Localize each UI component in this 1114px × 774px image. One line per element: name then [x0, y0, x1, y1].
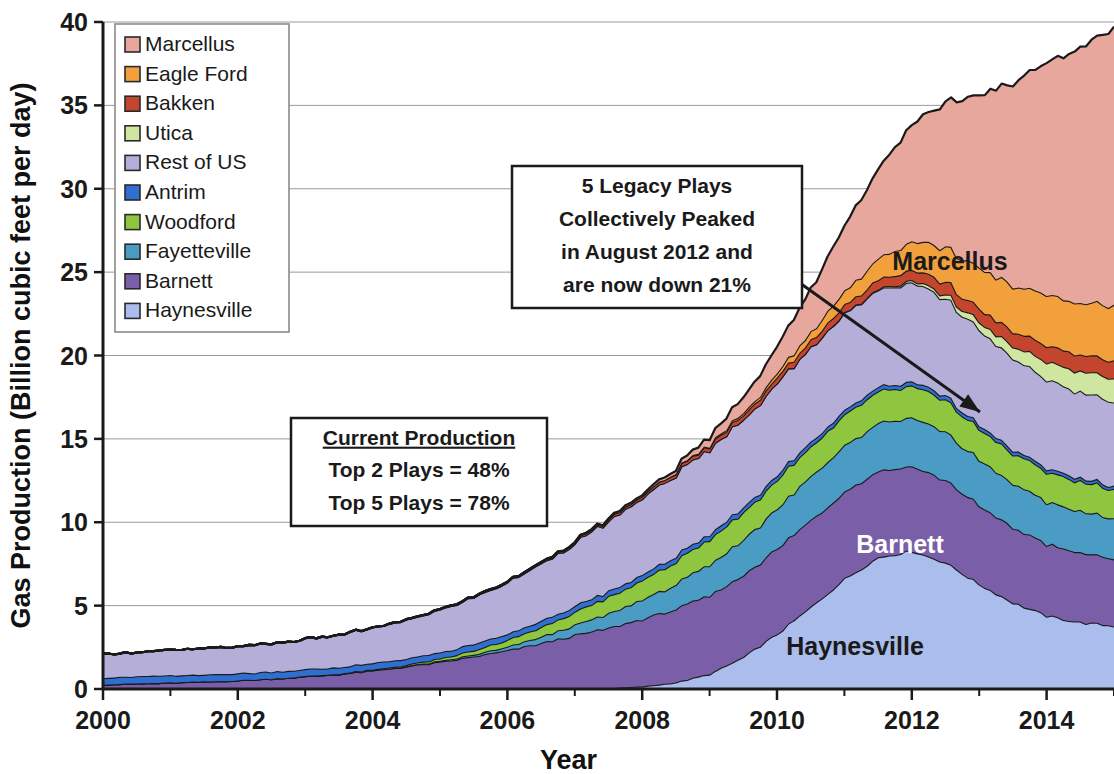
x-tick-label: 2002: [210, 706, 266, 734]
legend-label-rest-of-us: Rest of US: [145, 150, 247, 173]
x-axis-title: Year: [540, 745, 598, 774]
legend-swatch-utica: [125, 126, 140, 141]
y-tick-label: 15: [60, 425, 88, 453]
series-inline-label: Haynesville: [786, 632, 924, 660]
legend-label-haynesville: Haynesville: [145, 298, 252, 321]
legend-label-antrim: Antrim: [145, 180, 206, 203]
y-tick-label: 30: [60, 175, 88, 203]
y-tick-label: 35: [60, 91, 88, 119]
legend-label-woodford: Woodford: [145, 210, 236, 233]
y-tick-label: 25: [60, 258, 88, 286]
y-tick-label: 5: [74, 592, 88, 620]
legend-label-utica: Utica: [145, 121, 193, 144]
stacked-area-chart: 0510152025303540200020022004200620082010…: [0, 0, 1114, 774]
legend-swatch-woodford: [125, 215, 140, 230]
legend-swatch-bakken: [125, 96, 140, 111]
x-tick-label: 2000: [75, 706, 131, 734]
annotation-line: Top 5 Plays = 78%: [328, 491, 509, 514]
annotation-line: Current Production: [323, 426, 516, 449]
chart-figure: 0510152025303540200020022004200620082010…: [0, 0, 1114, 774]
x-tick-label: 2014: [1019, 706, 1075, 734]
annotation-line: in August 2012 and: [561, 240, 753, 263]
annotation-line: Top 2 Plays = 48%: [328, 458, 509, 481]
legend-swatch-antrim: [125, 185, 140, 200]
legend-label-eagle-ford: Eagle Ford: [145, 62, 248, 85]
legend-swatch-fayetteville: [125, 244, 140, 259]
series-inline-label: Barnett: [856, 530, 944, 558]
y-tick-label: 0: [74, 675, 88, 703]
series-inline-label: Marcellus: [892, 247, 1007, 275]
legend-swatch-eagle-ford: [125, 67, 140, 82]
y-tick-label: 40: [60, 8, 88, 36]
y-tick-label: 10: [60, 508, 88, 536]
x-tick-label: 2010: [749, 706, 805, 734]
x-tick-label: 2006: [480, 706, 536, 734]
y-tick-label: 20: [60, 342, 88, 370]
annotation-line: Collectively Peaked: [559, 207, 755, 230]
legend-label-barnett: Barnett: [145, 269, 213, 292]
annotation-line: 5 Legacy Plays: [582, 174, 733, 197]
x-tick-label: 2004: [345, 706, 401, 734]
legend-swatch-barnett: [125, 274, 140, 289]
x-tick-label: 2012: [884, 706, 940, 734]
legend-label-fayetteville: Fayetteville: [145, 239, 251, 262]
legend-label-bakken: Bakken: [145, 91, 215, 114]
legend-swatch-haynesville: [125, 303, 140, 318]
y-axis-title: Gas Production (Billion cubic feet per d…: [6, 82, 36, 628]
legend-swatch-marcellus: [125, 37, 140, 52]
legend: MarcellusEagle FordBakkenUticaRest of US…: [115, 24, 289, 332]
legend-swatch-rest-of-us: [125, 155, 140, 170]
annotation-line: are now down 21%: [563, 273, 751, 296]
legend-label-marcellus: Marcellus: [145, 32, 235, 55]
x-tick-label: 2008: [614, 706, 670, 734]
